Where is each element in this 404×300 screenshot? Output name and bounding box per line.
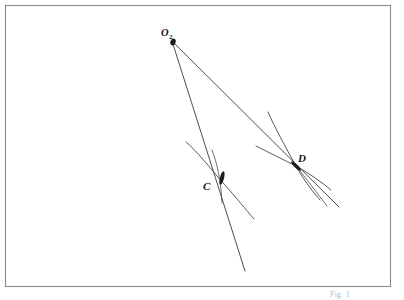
figure-svg: O 2 C D xyxy=(0,0,404,300)
ray-o2-to-d xyxy=(172,41,339,207)
label-point-d: D xyxy=(297,152,306,164)
curve-d-lower-branch xyxy=(296,166,327,206)
label-origin-subscript: 2 xyxy=(169,33,173,41)
figure-border xyxy=(6,6,391,287)
label-point-c: C xyxy=(203,180,211,192)
caption-fragment-text: Fig. 1 xyxy=(330,289,402,300)
figure-canvas: O 2 C D Fig. 1 xyxy=(0,0,404,300)
curve-d-upper-branch xyxy=(256,146,331,190)
caption-fragment-strip: Fig. 1 xyxy=(330,289,402,300)
ray-o2-to-c xyxy=(172,41,245,271)
label-origin: O xyxy=(161,27,169,38)
